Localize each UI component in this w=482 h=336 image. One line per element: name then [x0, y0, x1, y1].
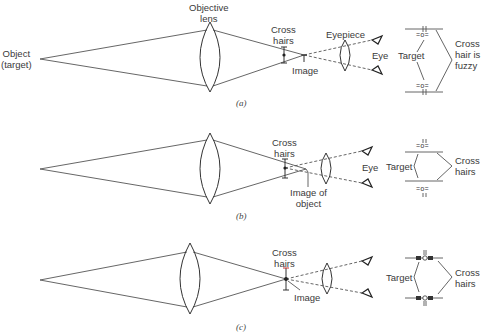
svg-text:=o=: =o= — [416, 185, 429, 193]
caption-a: (a) — [236, 98, 247, 108]
note-line-2: hairs — [455, 278, 480, 289]
panel-a-rays — [40, 30, 372, 86]
objective-lens-b — [200, 133, 220, 204]
telescope-focusing-diagram: =o= =o= =o= =o= — [0, 0, 482, 336]
image-label-c: Image — [294, 292, 320, 303]
fuzzy-note-a: Cross hair is fuzzy — [455, 38, 480, 71]
crosshairs-label-c: Cross hairs — [272, 247, 297, 269]
eye-label-a: Eye — [372, 50, 388, 61]
image-of-text: Image of — [290, 187, 327, 198]
eye-label-b: Eye — [362, 162, 378, 173]
crosshairs-label-a: Cross hairs — [271, 24, 296, 46]
note-line-2: hair is — [455, 49, 480, 60]
eyepiece-lens-c — [322, 263, 332, 294]
svg-text:=o=: =o= — [416, 31, 429, 39]
note-line-2: hairs — [455, 166, 480, 177]
svg-text:=o=: =o= — [416, 142, 429, 150]
note-line-1: Cross — [455, 38, 480, 49]
caption-b: (b) — [236, 211, 247, 221]
objective-lens-c — [180, 243, 200, 314]
target-label-c: Target — [386, 272, 412, 283]
object-sub-text: (target) — [1, 59, 32, 70]
eyepiece-lens-b — [321, 153, 331, 184]
hairs-text: hairs — [272, 148, 297, 159]
hairs-text: hairs — [271, 35, 296, 46]
objective-lens-a — [200, 22, 220, 92]
crosshairs-note-b: Cross hairs — [455, 155, 480, 177]
cross-text: Cross — [271, 24, 296, 35]
target-label-b: Target — [386, 161, 412, 172]
crosshairs-label-b: Cross hairs — [272, 137, 297, 159]
cross-text: Cross — [272, 247, 297, 258]
objective-text: Objective — [189, 2, 229, 13]
cross-text: Cross — [272, 137, 297, 148]
objective-lens-label: Objective lens — [189, 2, 229, 24]
object-label: Object (target) — [1, 48, 32, 70]
objective-sub-text: lens — [189, 13, 229, 24]
target-label-a: Target — [398, 50, 424, 61]
svg-text:=o=: =o= — [416, 82, 429, 90]
note-line-1: Cross — [455, 155, 480, 166]
image-pointer-c — [288, 281, 300, 290]
note-line-1: Cross — [455, 267, 480, 278]
object-text: object — [290, 198, 327, 209]
hairs-text: hairs — [272, 258, 297, 269]
eyepiece-label: Eyepiece — [326, 29, 365, 40]
image-of-object-label: Image of object — [290, 187, 327, 209]
crosshair-a — [281, 47, 287, 63]
crosshairs-note-c: Cross hairs — [455, 267, 480, 289]
eye-icon-c — [362, 257, 372, 297]
object-text: Object — [1, 48, 32, 59]
caption-c: (c) — [236, 322, 246, 332]
note-line-3: fuzzy — [455, 60, 480, 71]
image-label-a: Image — [292, 65, 318, 76]
eyepiece-lens-a — [340, 40, 350, 71]
